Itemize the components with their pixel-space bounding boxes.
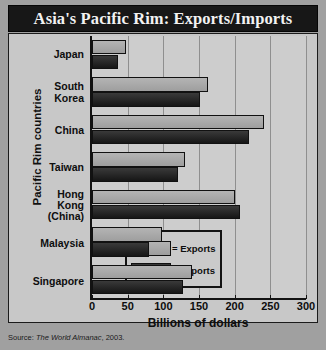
bar-group	[92, 73, 306, 110]
bar-group	[92, 36, 306, 73]
chart-title-bar: Asia's Pacific Rim: Exports/Imports	[8, 5, 318, 32]
bar-group	[92, 186, 306, 223]
category-label: Japan	[31, 36, 87, 74]
x-tick-label: 200	[225, 300, 243, 312]
x-tick-label: 150	[190, 300, 208, 312]
category-label: China	[31, 111, 87, 149]
category-label: Hong Kong (China)	[31, 187, 87, 225]
bar-imports	[92, 242, 149, 257]
x-tick-label: 100	[154, 300, 172, 312]
x-axis-title: Billions of dollars	[90, 316, 306, 330]
category-label: Malaysia	[31, 225, 87, 263]
bar-exports	[92, 152, 185, 167]
bar-imports	[92, 205, 240, 220]
source-note: Source: The World Almanac, 2003.	[8, 333, 124, 342]
bar-exports	[92, 227, 162, 242]
bar-imports	[92, 280, 183, 295]
bar-imports	[92, 167, 178, 182]
source-note-bar: Source: The World Almanac, 2003.	[8, 330, 318, 344]
gridline	[306, 36, 307, 298]
bar-exports	[92, 265, 192, 280]
bar-imports	[92, 130, 249, 145]
bar-imports	[92, 55, 118, 70]
bar-exports	[92, 40, 126, 55]
category-label: Taiwan	[31, 149, 87, 187]
chart-figure: Asia's Pacific Rim: Exports/Imports Paci…	[0, 0, 326, 350]
category-label: Singapore	[31, 262, 87, 300]
x-axis-tick-labels: 050100150200250300	[90, 300, 306, 316]
x-axis-tick	[306, 295, 307, 299]
chart-title: Asia's Pacific Rim: Exports/Imports	[34, 9, 293, 29]
category-label: South Korea	[31, 74, 87, 112]
x-tick-label: 0	[89, 300, 95, 312]
chart-frame: Pacific Rim countries JapanSouth KoreaCh…	[8, 33, 318, 323]
bar-exports	[92, 115, 264, 130]
bar-imports	[92, 92, 200, 107]
legend-label-exports: = Exports	[172, 243, 216, 254]
bar-group	[92, 111, 306, 148]
x-tick-label: 250	[261, 300, 279, 312]
bar-exports	[92, 190, 235, 205]
bar-group	[92, 148, 306, 185]
x-tick-label: 300	[297, 300, 315, 312]
category-axis-labels: JapanSouth KoreaChinaTaiwanHong Kong (Ch…	[31, 36, 87, 300]
bar-exports	[92, 77, 208, 92]
x-tick-label: 50	[122, 300, 134, 312]
